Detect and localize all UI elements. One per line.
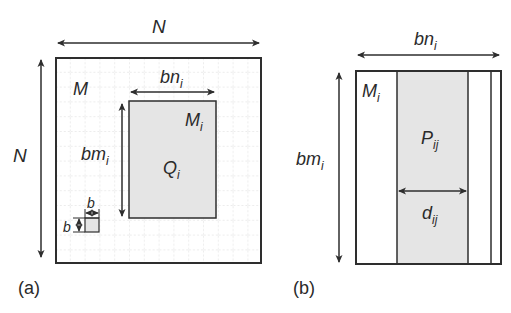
matrix-height-label: N xyxy=(13,145,27,166)
block-row-height-label: bmi xyxy=(296,149,324,173)
matrix-m-label: M xyxy=(73,79,88,99)
diagram-svg: N N M Mi Qi bni bmi b b (a) bni xyxy=(0,0,511,313)
block-row-width-label: bni xyxy=(414,29,437,53)
block-height-label: b xyxy=(63,219,71,235)
panel-a-caption: (a) xyxy=(18,278,40,298)
block-width-label: b xyxy=(87,195,95,211)
panel-a: N N M Mi Qi bni bmi b b (a) xyxy=(13,16,261,298)
panel-p-region xyxy=(397,71,468,264)
block-b xyxy=(85,218,99,232)
panel-b: bni bmi Mi Pij dij (b) xyxy=(293,29,501,298)
diagram-canvas: N N M Mi Qi bni bmi b b (a) bni xyxy=(0,0,511,313)
matrix-width-label: N xyxy=(152,16,166,37)
panel-b-caption: (b) xyxy=(293,278,315,298)
block-row-mi-label: Mi xyxy=(362,81,380,105)
